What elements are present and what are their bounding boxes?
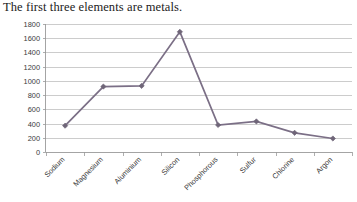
x-axis-tick-label: Phosphorous bbox=[182, 155, 219, 192]
x-axis-tick-label: Argon bbox=[314, 155, 334, 175]
x-axis-tick-label: Silicon bbox=[160, 155, 182, 177]
chart-figure: The first three elements are metals. 020… bbox=[0, 0, 357, 202]
x-axis-tick-label: Sodium bbox=[42, 155, 66, 179]
axis-tick-marks bbox=[43, 25, 353, 156]
y-axis-tick-label: 200 bbox=[28, 134, 40, 143]
y-axis-tick-label: 1200 bbox=[24, 63, 40, 72]
x-axis-tick-label: Chlorine bbox=[270, 155, 296, 181]
y-axis-tick-label: 1400 bbox=[24, 48, 40, 57]
x-axis-tick-label: Sulfur bbox=[238, 155, 258, 175]
line-chart-plot: 020040060080010001200140016001800 Sodium… bbox=[0, 0, 357, 202]
y-axis-tick-label: 600 bbox=[28, 105, 40, 114]
data-point-marker bbox=[216, 122, 221, 127]
data-point-marker bbox=[292, 130, 297, 135]
data-point-marker bbox=[330, 136, 335, 141]
y-axis-tick-label: 400 bbox=[28, 120, 40, 129]
y-axis-tick-label: 1800 bbox=[24, 20, 40, 29]
y-axis-tick-label: 0 bbox=[36, 148, 40, 157]
gridlines-group bbox=[46, 25, 352, 139]
x-axis-tick-label: Magnesium bbox=[71, 155, 104, 188]
x-axis-tick-labels: SodiumMagnesiumAluminiumSiliconPhosphoro… bbox=[42, 155, 334, 193]
x-axis-tick-label: Aluminium bbox=[112, 155, 143, 186]
data-point-marker bbox=[254, 119, 259, 124]
data-series-line bbox=[65, 32, 333, 139]
y-axis-tick-labels: 020040060080010001200140016001800 bbox=[24, 20, 40, 157]
y-axis-tick-label: 1600 bbox=[24, 34, 40, 43]
y-axis-tick-label: 1000 bbox=[24, 77, 40, 86]
y-axis-tick-label: 800 bbox=[28, 91, 40, 100]
